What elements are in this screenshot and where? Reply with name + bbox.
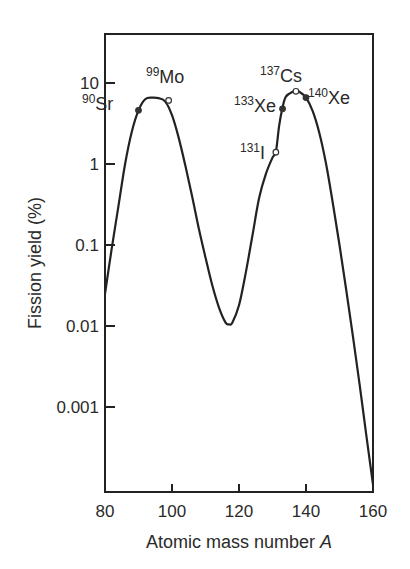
- yield-curve: [105, 91, 373, 485]
- isotope-label: 137Cs: [260, 64, 302, 86]
- x-axis-ticks: 80100120140160: [96, 484, 388, 521]
- isotope-label: 99Mo: [146, 65, 184, 87]
- isotope-marker: [293, 88, 299, 94]
- y-tick-label: 1: [90, 155, 99, 174]
- y-axis-ticks: 1010.10.010.001: [56, 74, 115, 417]
- isotope-marker: [166, 98, 172, 104]
- isotope-marker: [273, 149, 279, 155]
- isotope-marker: [136, 108, 142, 114]
- y-tick-label: 0.1: [75, 236, 99, 255]
- x-axis-title: Atomic mass number A: [146, 532, 332, 552]
- isotope-label: 131I: [240, 141, 265, 163]
- isotope-label: 90Sr: [82, 92, 113, 114]
- y-tick-label: 0.001: [56, 398, 99, 417]
- isotope-labels: 90Sr99Mo131I133Xe137Cs140Xe: [82, 64, 350, 163]
- x-tick-label: 100: [158, 502, 186, 521]
- y-axis-title: Fission yield (%): [25, 197, 45, 329]
- x-tick-label: 120: [225, 502, 253, 521]
- x-tick-label: 80: [96, 502, 115, 521]
- y-tick-label: 10: [80, 74, 99, 93]
- fission-yield-chart: 80100120140160 1010.10.010.001 90Sr99Mo1…: [0, 0, 410, 569]
- isotope-label: 133Xe: [234, 94, 276, 116]
- y-tick-label: 0.01: [66, 317, 99, 336]
- x-tick-label: 140: [292, 502, 320, 521]
- isotope-label: 140Xe: [308, 86, 350, 108]
- isotope-marker: [280, 106, 286, 112]
- x-tick-label: 160: [359, 502, 387, 521]
